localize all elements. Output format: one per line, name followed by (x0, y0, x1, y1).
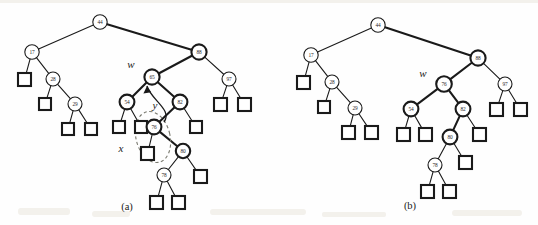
tree-node-88: 88 (191, 44, 206, 59)
node-key-label: 28 (50, 76, 56, 82)
tree-edge (438, 143, 447, 159)
tree-edge (106, 24, 192, 50)
tree-edge (204, 57, 224, 75)
tree-edge (159, 131, 178, 146)
figure-container: 441788286597295482768078wyx(a)4417882876… (0, 0, 538, 225)
tree-edge (326, 88, 330, 102)
tree-edge (36, 57, 49, 74)
null-leaf-square (194, 170, 207, 183)
node-key-label: 78 (161, 172, 167, 178)
tree-edge (47, 85, 51, 99)
panel-caption-a: (a) (121, 201, 133, 213)
tree-node-78: 78 (157, 168, 171, 182)
null-leaf-square (214, 98, 227, 111)
tree-diagram-svg: 441788286597295482768078wyx(a)4417882876… (0, 0, 538, 225)
null-leaf-square (419, 128, 432, 141)
tree-edge (305, 61, 309, 76)
tree-node-76: 76 (436, 76, 452, 92)
null-leaf-square (113, 121, 125, 133)
tree-edge (317, 28, 372, 53)
tree-node-54: 54 (120, 95, 135, 110)
node-key-label: 97 (502, 81, 508, 87)
tree-edge (159, 107, 175, 123)
tree-edge (168, 156, 179, 170)
node-key-label: 44 (375, 22, 381, 28)
node-key-label: 29 (352, 105, 358, 111)
panels-layer: 441788286597295482768078wyx(a)4417882876… (18, 15, 527, 213)
tree-edge (158, 55, 193, 73)
edges-a (26, 24, 241, 197)
null-leaf-square (365, 126, 378, 139)
tree-node-44: 44 (93, 15, 107, 29)
tree-node-88: 88 (470, 50, 485, 65)
null-leaf-square (490, 103, 503, 116)
node-key-label: 88 (196, 49, 202, 55)
tree-node-78: 78 (428, 158, 442, 172)
tree-edge (149, 134, 152, 148)
null-leaf-square (297, 76, 310, 89)
tree-node-28: 28 (325, 75, 339, 89)
null-leaf-square (190, 121, 202, 133)
tree-edge (121, 108, 125, 121)
null-leaf-square (135, 121, 147, 133)
tree-node-44: 44 (371, 18, 385, 32)
null-leaf-square (318, 101, 330, 113)
node-key-label: 88 (475, 55, 481, 61)
null-leaf-square (238, 98, 251, 111)
tree-edge (483, 63, 500, 80)
null-leaf-square (473, 128, 486, 141)
node-key-label: 82 (177, 99, 183, 105)
tree-edge (450, 62, 473, 79)
node-key-label: 80 (180, 148, 186, 154)
tree-node-28: 28 (46, 72, 60, 86)
tree-node-76: 76 (147, 120, 162, 135)
tree-node-97: 97 (498, 77, 512, 91)
tree-edge (315, 60, 328, 77)
null-leaf-square (62, 123, 74, 135)
node-key-label: 54 (124, 99, 130, 105)
tree-edge (498, 90, 503, 104)
node-key-label: 76 (151, 124, 157, 130)
tree-node-29: 29 (68, 97, 82, 111)
tree-edge (416, 88, 438, 105)
tree-edge (453, 115, 460, 131)
node-key-label: 82 (460, 106, 466, 112)
restructure-arrowhead (143, 86, 151, 93)
tree-edge (158, 181, 162, 197)
panel-b: 4417882876972954828078w(b) (297, 18, 527, 212)
tree-node-82: 82 (456, 102, 471, 117)
tree-node-82: 82 (173, 95, 188, 110)
node-key-label: 65 (149, 74, 155, 80)
null-leaf-square (172, 196, 185, 209)
tree-edge (448, 90, 459, 104)
node-key-label: 17 (308, 52, 314, 58)
tree-edge (26, 58, 30, 73)
null-leaf-square (397, 128, 410, 141)
tree-edge (69, 110, 73, 124)
tree-node-65: 65 (144, 69, 159, 84)
null-leaf-square (459, 156, 472, 169)
tree-node-80: 80 (176, 144, 190, 158)
tree-node-17: 17 (25, 45, 39, 59)
null-leaf-square (342, 126, 355, 139)
tree-edge (405, 116, 409, 129)
panel-a: 441788286597295482768078wyx(a) (18, 15, 251, 213)
tree-edge (429, 171, 433, 186)
node-key-label: 28 (329, 79, 335, 85)
tree-edge (384, 27, 471, 56)
tree-edge (57, 84, 71, 99)
node-key-label: 44 (97, 19, 103, 25)
null-leaf-square (514, 103, 527, 116)
tree-edge (336, 87, 351, 103)
null-leaf-square (85, 123, 97, 135)
tree-node-17: 17 (304, 48, 318, 62)
tree-node-29: 29 (348, 101, 362, 115)
node-key-label: 80 (447, 134, 453, 140)
null-leaf-square (39, 98, 51, 110)
node-key-label: 54 (408, 106, 414, 112)
null-leaf-square (150, 196, 163, 209)
tree-node-54: 54 (404, 102, 419, 117)
tree-edge (167, 181, 176, 198)
null-leaf-square (443, 185, 456, 198)
tree-edge (350, 114, 353, 127)
